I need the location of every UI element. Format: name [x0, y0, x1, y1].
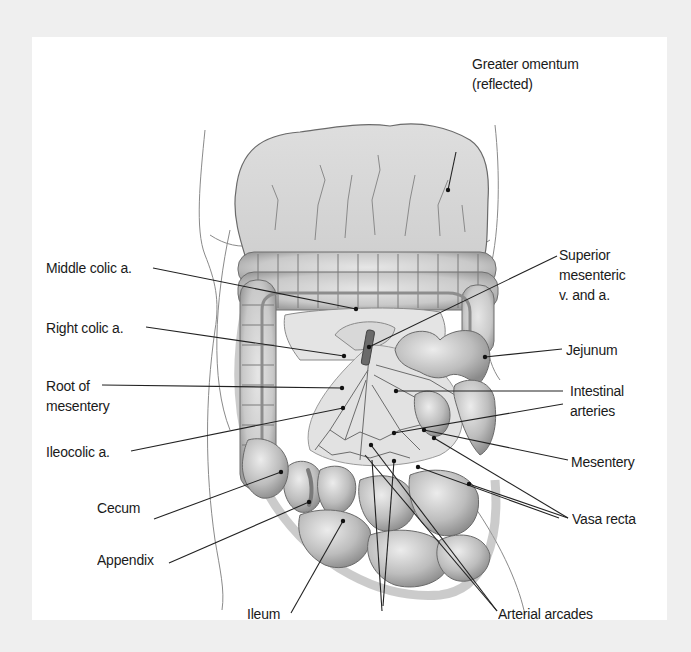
label-cecum: Cecum: [97, 498, 140, 518]
label-vasa-recta: Vasa recta: [572, 509, 636, 529]
transverse-colon: [238, 252, 498, 310]
label-appendix: Appendix: [97, 550, 154, 570]
label-jejunum: Jejunum: [566, 340, 617, 360]
label-ileum: Ileum: [247, 604, 280, 624]
cecum: [242, 439, 288, 498]
label-ileocolic-artery: Ileocolic a.: [46, 442, 110, 462]
label-mesentery: Mesentery: [571, 452, 635, 472]
label-arterial-arcades: Arterial arcades: [498, 604, 593, 624]
label-right-colic-artery: Right colic a.: [46, 318, 123, 338]
label-root-of-mesentery: Root of mesentery: [46, 376, 110, 416]
label-superior-mesenteric-vessels: Superior mesenteric v. and a.: [559, 245, 625, 305]
label-greater-omentum: Greater omentum (reflected): [472, 54, 579, 94]
label-intestinal-arteries: Intestinal arteries: [570, 381, 624, 421]
label-middle-colic-artery: Middle colic a.: [46, 258, 132, 278]
greater-omentum: [235, 124, 488, 265]
